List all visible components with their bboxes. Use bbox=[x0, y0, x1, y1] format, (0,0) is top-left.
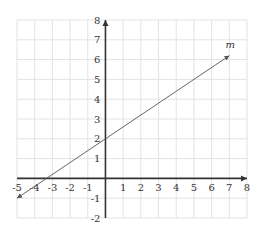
x-tick-label: 3 bbox=[155, 182, 161, 193]
x-tick-label: -5 bbox=[12, 182, 22, 193]
y-tick-label: 4 bbox=[94, 94, 100, 105]
x-tick-label: 8 bbox=[244, 182, 250, 193]
y-tick-label: -1 bbox=[91, 193, 101, 204]
coordinate-plane: -5-4-3-2-112345678-2-112345678m bbox=[0, 0, 262, 233]
y-tick-label: 3 bbox=[94, 114, 100, 125]
x-tick-label: -3 bbox=[48, 182, 58, 193]
x-tick-label: 5 bbox=[191, 182, 197, 193]
x-tick-label: -2 bbox=[65, 182, 75, 193]
x-tick-label: 1 bbox=[120, 182, 126, 193]
y-tick-label: 6 bbox=[94, 54, 100, 65]
y-tick-label: 8 bbox=[94, 15, 100, 26]
x-tick-label: 4 bbox=[173, 182, 179, 193]
x-tick-label: 7 bbox=[226, 182, 232, 193]
y-tick-label: 5 bbox=[94, 74, 100, 85]
y-tick-label: -2 bbox=[91, 213, 101, 224]
x-tick-label: 2 bbox=[138, 182, 144, 193]
x-tick-label: 6 bbox=[208, 182, 214, 193]
y-tick-label: 1 bbox=[94, 153, 100, 164]
y-tick-label: 7 bbox=[94, 34, 100, 45]
line-label: m bbox=[226, 39, 235, 50]
